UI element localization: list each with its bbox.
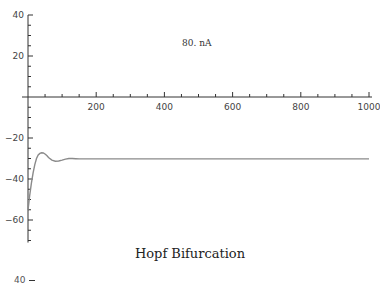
x-tick-label: 600	[224, 102, 241, 112]
next-plot-y-tick	[29, 280, 35, 281]
y-tick-label: −40	[5, 174, 24, 184]
line-chart: 4020−20−40−602004006008001000 80. nA	[0, 0, 380, 245]
y-tick-label: 40	[13, 10, 25, 20]
y-tick-label: −20	[5, 133, 24, 143]
current-annotation: 80. nA	[182, 38, 212, 48]
x-tick-label: 1000	[358, 102, 380, 112]
x-tick-label: 800	[292, 102, 309, 112]
next-plot-y-tick-label: 40	[14, 275, 25, 285]
y-tick-label: 20	[13, 51, 25, 61]
series-line	[28, 153, 369, 210]
x-tick-label: 200	[88, 102, 105, 112]
chart-caption: Hopf Bifurcation	[0, 246, 380, 261]
y-tick-label: −60	[5, 215, 24, 225]
x-tick-label: 400	[156, 102, 173, 112]
